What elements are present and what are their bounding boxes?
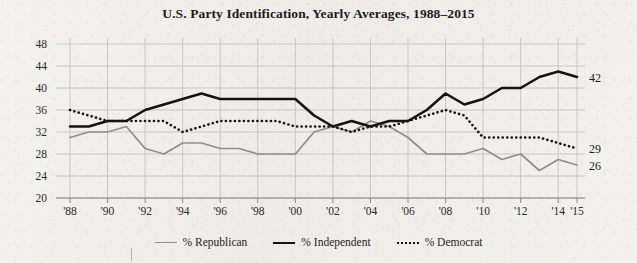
y-axis-tick-labels: 2024283236404448: [36, 38, 48, 204]
republican-line-swatch: [155, 237, 177, 247]
x-axis-tick-label: '02: [326, 205, 340, 217]
y-axis-tick-label: 20: [36, 192, 48, 204]
x-axis-tick-label: '90: [101, 205, 115, 217]
end-label-republican: 26: [589, 159, 601, 173]
legend-item-republican: % Republican: [155, 236, 248, 248]
x-axis-tick-labels: '88'90'92'94'96'98'00'02'04'06'08'10'12'…: [63, 205, 584, 217]
chart-legend: % Republican % Independent % Democrat: [0, 236, 637, 248]
chart-plot-area: 2024283236404448 '88'90'92'94'96'98'00'0…: [0, 0, 637, 263]
margin-tick-mark: [131, 248, 132, 261]
x-axis-tick-label: '06: [401, 205, 415, 217]
series-end-labels-group: 264229: [589, 71, 601, 173]
x-axis-tick-label: '04: [364, 205, 378, 217]
y-axis-tick-label: 32: [36, 126, 48, 138]
x-axis-tick-label: '12: [514, 205, 528, 217]
x-axis-tick-label: '88: [63, 205, 77, 217]
x-axis-tick-marks: [70, 198, 577, 203]
independent-line-swatch: [273, 237, 295, 247]
x-axis-tick-label: '14: [551, 205, 565, 217]
series-line-republican: [70, 121, 577, 171]
x-axis-tick-label: '94: [176, 205, 190, 217]
data-series-group: [70, 72, 577, 171]
x-axis-tick-label: '08: [439, 205, 453, 217]
series-line-independent: [70, 72, 577, 127]
x-axis-tick-label: '10: [476, 205, 490, 217]
x-axis-tick-label: '00: [289, 205, 303, 217]
legend-item-independent: % Independent: [273, 236, 370, 248]
x-axis-tick-label: '92: [138, 205, 152, 217]
x-axis-tick-label: '98: [251, 205, 265, 217]
legend-label-independent: % Independent: [301, 236, 370, 248]
x-axis-tick-label: '96: [213, 205, 227, 217]
y-axis-tick-label: 36: [36, 104, 48, 116]
legend-item-democrat: % Democrat: [397, 236, 483, 248]
chart-container: U.S. Party Identification, Yearly Averag…: [0, 0, 637, 263]
democrat-dotted-swatch: [397, 237, 419, 247]
y-axis-tick-label: 28: [36, 148, 48, 160]
legend-label-democrat: % Democrat: [425, 236, 483, 248]
end-label-democrat: 29: [589, 142, 601, 156]
x-axis-tick-label: '15: [570, 205, 584, 217]
y-axis-tick-label: 40: [36, 82, 48, 94]
end-label-independent: 42: [589, 71, 601, 85]
y-axis-tick-label: 44: [36, 60, 48, 72]
y-axis-tick-label: 24: [36, 170, 48, 182]
legend-label-republican: % Republican: [183, 236, 248, 248]
y-axis-tick-label: 48: [36, 38, 48, 50]
